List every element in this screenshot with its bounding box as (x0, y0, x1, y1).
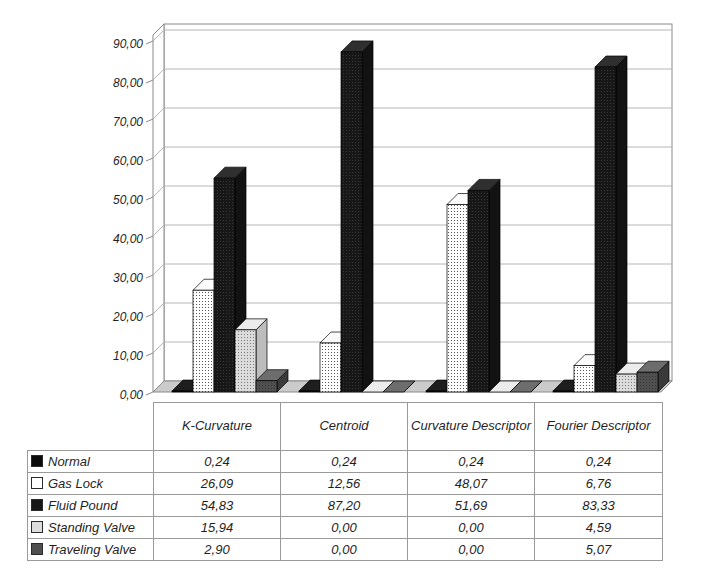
y-axis-tick (146, 41, 153, 44)
y-axis-label: 90,00 (113, 37, 143, 51)
bar-fluid-pound-3 (468, 179, 500, 392)
value-cell: 0,24 (535, 451, 663, 473)
value-cell: 87,20 (281, 495, 408, 517)
bar-front-face (574, 366, 595, 392)
table-row: Fluid Pound54,8387,2051,6983,33 (28, 495, 663, 517)
series-legend-cell: Standing Valve (28, 517, 154, 539)
fluid-pound-legend-marker-icon (31, 499, 43, 511)
y-axis-label: 80,00 (113, 76, 143, 90)
series-legend-cell: Normal (28, 451, 154, 473)
category-label-k-curvature: K-Curvature (154, 403, 281, 451)
bar-front-face (214, 178, 235, 392)
series-label: Fluid Pound (48, 498, 117, 513)
data-table: K-Curvature Centroid Curvature Descripto… (27, 402, 663, 561)
value-cell: 0,24 (154, 451, 281, 473)
table-row: Standing Valve15,940,000,004,59 (28, 517, 663, 539)
y-axis-tick (146, 158, 153, 161)
y-axis-tick (146, 236, 153, 239)
value-cell: 0,00 (408, 539, 535, 561)
value-cell: 6,76 (535, 473, 663, 495)
value-cell: 0,00 (281, 517, 408, 539)
category-header-row: K-Curvature Centroid Curvature Descripto… (28, 403, 663, 451)
value-cell: 0,00 (281, 539, 408, 561)
value-cell: 51,69 (408, 495, 535, 517)
bar-front-face (637, 372, 658, 392)
series-legend-cell: Traveling Valve (28, 539, 154, 561)
bar-front-face (341, 52, 362, 392)
bar-fluid-pound-2 (341, 41, 373, 392)
value-cell: 54,83 (154, 495, 281, 517)
bar-front-face (468, 190, 489, 392)
series-label: Gas Lock (48, 476, 103, 491)
y-axis-label: 0,00 (120, 388, 144, 402)
value-cell: 26,09 (154, 473, 281, 495)
value-cell: 15,94 (154, 517, 281, 539)
normal-legend-marker-icon (31, 455, 43, 467)
table-row: Normal0,240,240,240,24 (28, 451, 663, 473)
series-label: Normal (48, 454, 90, 469)
bar-front-face (172, 391, 193, 392)
series-label: Traveling Valve (48, 542, 136, 557)
value-cell: 0,00 (408, 517, 535, 539)
bar-front-face (553, 391, 574, 392)
series-legend-cell: Fluid Pound (28, 495, 154, 517)
traveling-valve-legend-marker-icon (31, 543, 43, 555)
standing-valve-legend-marker-icon (31, 521, 43, 533)
bar-side-face (616, 56, 627, 392)
table-row: Gas Lock26,0912,5648,076,76 (28, 473, 663, 495)
data-table-body: Normal0,240,240,240,24Gas Lock26,0912,56… (28, 451, 663, 561)
value-cell: 0,24 (408, 451, 535, 473)
y-axis-label: 70,00 (113, 115, 143, 129)
bar-fluid-pound-4 (595, 56, 627, 392)
category-label-curvature-descriptor: Curvature Descriptor (408, 403, 535, 451)
bar-front-face (299, 391, 320, 392)
bar-front-face (320, 343, 341, 392)
table-corner-cell (28, 403, 154, 451)
y-axis-label: 50,00 (113, 193, 143, 207)
series-label: Standing Valve (48, 520, 135, 535)
series-legend-cell: Gas Lock (28, 473, 154, 495)
bar-side-face (362, 41, 373, 392)
value-cell: 0,24 (281, 451, 408, 473)
chart-side-wall (153, 24, 164, 392)
bar-front-face (426, 391, 447, 392)
value-cell: 2,90 (154, 539, 281, 561)
y-axis-label: 40,00 (113, 232, 143, 246)
bar-front-face (256, 381, 277, 392)
chart-figure: 0,0010,0020,0030,0040,0050,0060,0070,008… (0, 0, 705, 588)
y-axis-label: 30,00 (113, 271, 143, 285)
y-axis-tick (146, 80, 153, 83)
y-axis-tick (146, 353, 153, 356)
bar-side-face (489, 179, 500, 392)
bar-front-face (616, 374, 637, 392)
bar-front-face (235, 330, 256, 392)
chart-canvas: 0,0010,0020,0030,0040,0050,0060,0070,008… (0, 0, 705, 402)
table-row: Traveling Valve2,900,000,005,07 (28, 539, 663, 561)
y-axis-tick (146, 314, 153, 317)
value-cell: 4,59 (535, 517, 663, 539)
value-cell: 48,07 (408, 473, 535, 495)
value-cell: 83,33 (535, 495, 663, 517)
category-label-fourier-descriptor: Fourier Descriptor (535, 403, 663, 451)
y-axis-tick (146, 197, 153, 200)
y-axis-label: 60,00 (113, 154, 143, 168)
value-cell: 12,56 (281, 473, 408, 495)
y-axis-label: 10,00 (113, 349, 143, 363)
value-cell: 5,07 (535, 539, 663, 561)
data-table-container: K-Curvature Centroid Curvature Descripto… (27, 402, 663, 561)
y-axis-tick (146, 392, 153, 395)
y-axis-label: 20,00 (112, 310, 143, 324)
category-label-centroid: Centroid (281, 403, 408, 451)
bar-front-face (447, 205, 468, 392)
bar-front-face (595, 67, 616, 392)
y-axis-tick (146, 119, 153, 122)
bar-front-face (193, 290, 214, 392)
gas-lock-legend-marker-icon (31, 477, 43, 489)
y-axis-tick (146, 275, 153, 278)
